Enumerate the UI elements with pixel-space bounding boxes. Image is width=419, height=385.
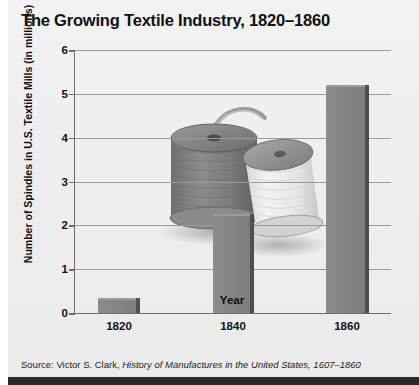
y-tick-5	[69, 94, 75, 96]
x-axis-label: Year	[74, 294, 390, 306]
y-tick-label-6: 6	[54, 44, 68, 56]
y-tick-1	[69, 269, 75, 271]
y-tick-6	[69, 50, 75, 52]
x-tick-label-1860: 1860	[307, 320, 387, 332]
bottom-accent-bar	[8, 377, 419, 385]
y-tick-label-0: 0	[54, 307, 68, 319]
y-axis-label: Number of Spindles in U.S. Textile Mills…	[22, 3, 34, 265]
y-tick-label-2: 2	[54, 219, 68, 231]
y-tick-label-5: 5	[54, 88, 68, 100]
y-tick-3	[69, 182, 75, 184]
source-note: Source: Victor S. Clark, History of Manu…	[21, 359, 361, 370]
chart-figure: The Growing Textile Industry, 1820–1860 …	[0, 0, 419, 385]
y-tick-2	[69, 225, 75, 227]
y-tick-label-4: 4	[54, 132, 68, 144]
y-tick-0	[69, 313, 75, 315]
source-title: History of Manufactures in the United St…	[122, 359, 361, 370]
chart-title: The Growing Textile Industry, 1820–1860	[21, 11, 330, 30]
y-axis-tick-labels: 6543210	[52, 50, 68, 313]
source-prefix: Source: Victor S. Clark,	[21, 359, 122, 370]
x-tick-label-1840: 1840	[193, 320, 273, 332]
y-tick-label-1: 1	[54, 263, 68, 275]
bar-1860	[326, 85, 369, 313]
x-tick-label-1820: 1820	[79, 320, 159, 332]
gridline-6	[75, 50, 391, 51]
y-tick-label-3: 3	[54, 176, 68, 188]
plot-area: 1820 1840 1860	[74, 50, 391, 314]
y-tick-4	[69, 138, 75, 140]
